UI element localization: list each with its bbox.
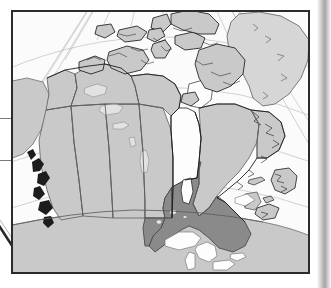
map-frame <box>11 10 310 274</box>
map-screenshot <box>0 0 331 288</box>
canada-map <box>13 12 308 272</box>
right-edge-shadow <box>309 0 331 288</box>
